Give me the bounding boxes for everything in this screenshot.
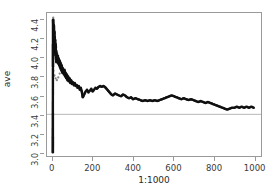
x-tick-mark-1	[92, 157, 93, 161]
x-tick-mark-4	[214, 157, 215, 161]
y-tick-mark-5	[40, 57, 44, 58]
y-tick-mark-2	[40, 115, 44, 116]
y-tick-label-1: 3.2	[32, 134, 41, 147]
chart-figure: ave 3.03.23.43.63.84.04.24.4 02004006008…	[0, 0, 278, 194]
x-tick-mark-0	[52, 157, 53, 161]
x-tick-label-2: 400	[125, 163, 141, 173]
x-tick-mark-3	[173, 157, 174, 161]
y-tick-mark-7	[40, 19, 44, 20]
x-tick-mark-2	[133, 157, 134, 161]
plot-canvas	[47, 13, 261, 156]
plot-area	[46, 12, 262, 157]
y-tick-mark-4	[40, 76, 44, 77]
y-tick-mark-3	[40, 96, 44, 97]
y-tick-label-2: 3.4	[32, 115, 41, 128]
data-series-points	[52, 18, 255, 153]
x-tick-label-4: 800	[206, 163, 222, 173]
y-tick-label-0: 3.0	[32, 153, 41, 166]
y-tick-label-5: 4.0	[32, 57, 41, 70]
y-tick-label-7: 4.4	[32, 19, 41, 32]
x-tick-label-0: 0	[49, 163, 54, 173]
x-axis-title: 1:1000	[138, 175, 170, 185]
y-axis-ticks: 3.03.23.43.63.84.04.24.4	[0, 12, 44, 157]
y-tick-label-4: 3.8	[32, 76, 41, 89]
y-tick-mark-1	[40, 134, 44, 135]
y-tick-label-6: 4.2	[32, 38, 41, 51]
y-tick-mark-6	[40, 38, 44, 39]
y-tick-label-3: 3.6	[32, 96, 41, 109]
x-tick-mark-5	[255, 157, 256, 161]
y-tick-mark-0	[40, 153, 44, 154]
x-tick-label-1: 200	[84, 163, 100, 173]
x-tick-label-3: 600	[165, 163, 181, 173]
x-axis-ticks: 02004006008001000	[46, 157, 262, 177]
x-tick-label-5: 1000	[244, 163, 266, 173]
